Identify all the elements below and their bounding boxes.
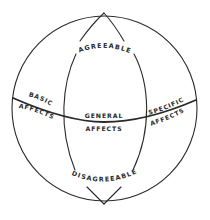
bottom-pole-right-line <box>104 187 121 204</box>
label-disagreeable: DISAGREEABLE <box>71 167 139 183</box>
label-general-affects: AFFECTS <box>86 125 123 132</box>
label-basic-line1: BASIC <box>28 91 54 107</box>
label-agreeable: AGREEABLE <box>77 42 133 56</box>
label-basic: BASIC <box>28 91 54 107</box>
bottom-pole-left-line <box>87 187 104 204</box>
label-general: GENERAL <box>85 112 124 119</box>
left-meridian <box>64 54 76 170</box>
right-meridian <box>133 54 147 170</box>
label-agreeable-text: AGREEABLE <box>77 42 133 56</box>
affects-sphere-diagram: AGREEABLE DISAGREEABLE BASIC AFFECTS GEN… <box>0 0 210 220</box>
label-disagreeable-text: DISAGREEABLE <box>71 167 139 183</box>
